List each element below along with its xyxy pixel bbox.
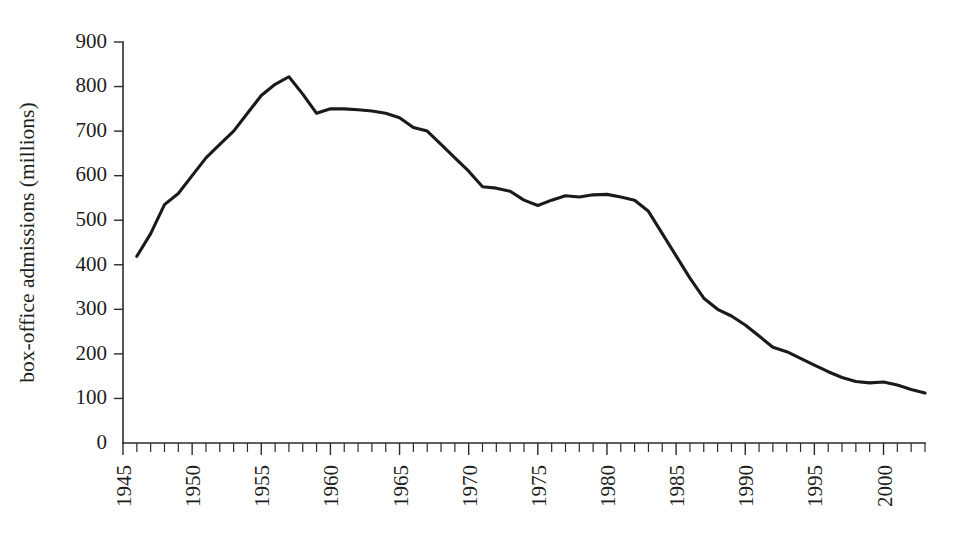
y-axis-tick-label: 500: [76, 207, 108, 231]
x-axis-tick-label: 1995: [803, 465, 827, 507]
x-axis-tick-label: 1985: [665, 465, 689, 507]
x-axis-tick-label: 1965: [389, 465, 413, 507]
x-axis-tick-label: 1975: [527, 465, 551, 507]
data-series-group: [137, 77, 925, 393]
y-axis-tick-label: 0: [97, 430, 108, 454]
y-axis-tick-label: 100: [76, 385, 108, 409]
chart-figure: 0100200300400500600700800900 19451950195…: [0, 0, 960, 542]
y-axis-tick-label: 700: [76, 118, 108, 142]
x-axis-tick-label: 1950: [181, 465, 205, 507]
y-axis-tick-label: 800: [76, 73, 108, 97]
x-axis-tick-label: 1955: [250, 465, 274, 507]
x-axis-tick-label: 2000: [873, 465, 897, 507]
line-chart-canvas: 0100200300400500600700800900 19451950195…: [0, 0, 960, 542]
x-axis-tick-label: 1970: [458, 465, 482, 507]
x-axis-tick-label: 1960: [319, 465, 343, 507]
x-axis: 1945195019551960196519701975198019851990…: [112, 443, 925, 507]
y-axis: 0100200300400500600700800900: [76, 29, 124, 454]
data-line-series: [137, 77, 925, 393]
y-axis-tick-label: 900: [76, 29, 108, 53]
y-axis-tick-label: 600: [76, 162, 108, 186]
x-axis-tick-label: 1980: [596, 465, 620, 507]
y-axis-title-label: box-office admissions (millions): [15, 102, 39, 382]
y-axis-title: box-office admissions (millions): [15, 102, 39, 382]
x-axis-tick-label: 1990: [734, 465, 758, 507]
y-axis-tick-label: 300: [76, 296, 108, 320]
x-axis-tick-label: 1945: [112, 465, 136, 507]
y-axis-tick-label: 400: [76, 252, 108, 276]
y-axis-tick-label: 200: [76, 341, 108, 365]
